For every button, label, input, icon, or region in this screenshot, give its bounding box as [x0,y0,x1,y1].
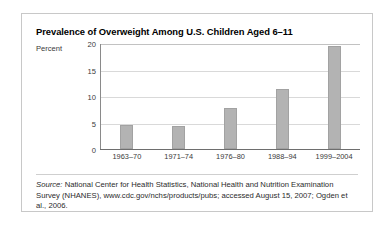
page-title: Prevalence of Overweight Among U.S. Chil… [36,26,293,37]
source-label: Source: [36,180,63,189]
bar-slot [256,44,308,149]
bar-slot [101,44,153,149]
bar-1971-74[interactable] [172,126,185,149]
y-axis-title: Percent [36,44,62,53]
x-tick-label: 1971–74 [153,152,205,161]
y-tick-label: 15 [74,66,96,75]
bar-series [101,44,360,149]
bar-slot [153,44,205,149]
y-tick-label: 0 [74,146,96,155]
x-tick-label: 1963–70 [101,152,153,161]
source-note: Source: National Center for Health Stati… [36,180,359,212]
x-tick-label: 1988–94 [256,152,308,161]
bar-1963-70[interactable] [120,125,133,149]
y-tick-label: 20 [74,40,96,49]
x-axis-tick-labels: 1963–70 1971–74 1976–80 1988–94 1999–200… [101,152,360,161]
chart-grid [100,44,360,150]
x-tick-label: 1999–2004 [308,152,360,161]
footer-divider [36,174,358,175]
source-line-2: Survey (NHANES), www.cdc.gov/nchs/produc… [36,191,314,200]
bar-1976-80[interactable] [224,108,237,149]
y-tick-label: 5 [74,119,96,128]
x-tick-label: 1976–80 [205,152,257,161]
x-axis-line [100,149,360,150]
chart-plot-area: Percent 20 15 10 5 0 [36,44,360,166]
bar-slot [308,44,360,149]
y-axis-tick-labels: 20 15 10 5 0 [74,44,96,150]
bar-1999-2004[interactable] [328,46,341,149]
y-tick-label: 10 [74,93,96,102]
bar-slot [205,44,257,149]
figure-frame: Prevalence of Overweight Among U.S. Chil… [21,13,373,212]
source-line-1: National Center for Health Statistics, N… [63,180,334,189]
bar-1988-94[interactable] [276,89,289,149]
